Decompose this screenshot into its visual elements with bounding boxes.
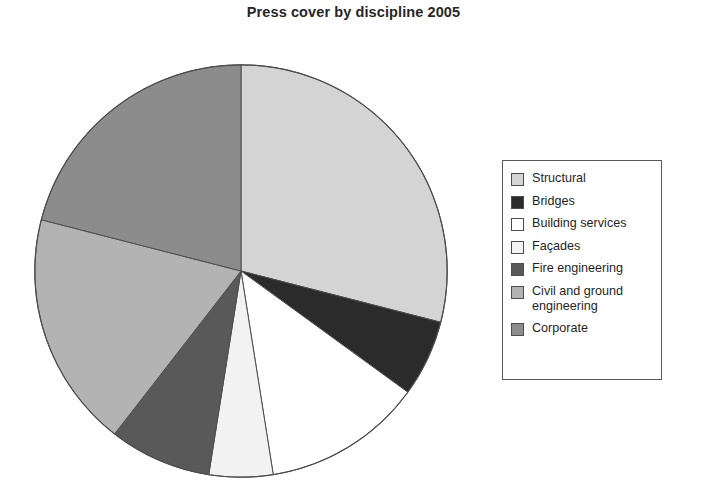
legend-item-label: Corporate [532,321,588,337]
pie-slice-group [35,65,447,477]
legend-item[interactable]: Fire engineering [511,261,655,277]
legend-item[interactable]: Building services [511,216,655,232]
legend-swatch-icon [511,196,524,209]
legend-item[interactable]: Structural [511,171,655,187]
legend-swatch-icon [511,323,524,336]
legend-item-label: Civil and ground engineering [532,284,623,315]
legend-swatch-icon [511,173,524,186]
legend-item-label: Bridges [532,194,575,210]
legend-swatch-icon [511,286,524,299]
legend-item-label: Façades [532,239,580,255]
legend-item[interactable]: Bridges [511,194,655,210]
legend-swatch-icon [511,263,524,276]
legend: StructuralBridgesBuilding servicesFaçade… [502,160,662,380]
chart-title: Press cover by discipline 2005 [0,4,707,20]
legend-item[interactable]: Façades [511,239,655,255]
legend-list: StructuralBridgesBuilding servicesFaçade… [511,171,655,344]
legend-item-label: Building services [532,216,627,232]
legend-item[interactable]: Civil and ground engineering [511,284,655,315]
pie-svg [34,64,448,478]
pie-chart [34,64,448,478]
legend-swatch-icon [511,241,524,254]
legend-item-label: Fire engineering [532,261,623,277]
legend-item-label: Structural [532,171,586,187]
legend-item[interactable]: Corporate [511,321,655,337]
legend-swatch-icon [511,218,524,231]
